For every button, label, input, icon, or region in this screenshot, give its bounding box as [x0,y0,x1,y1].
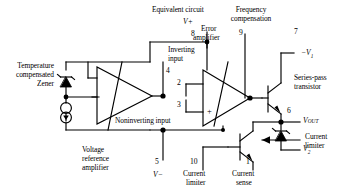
net-label-v2: V2 [303,144,310,155]
pin-label-4: 4 [166,66,170,75]
net-label-minus-v1-main: −V [301,48,311,57]
pin-label-6: 6 [287,106,291,115]
label-frequency-compensation-line1: Frequency [214,6,288,14]
zener-cathode-hook-right [72,77,75,80]
pin-label-2: 2 [177,78,181,87]
label-error-amplifier-line1: Error [201,25,216,33]
label-inverting-input-line1: Inverting [168,46,195,54]
label-temperature-compensated-line1: Temperature [2,62,54,70]
label-current-limiter-right-line1: Current [305,133,327,141]
label-current-limiter-left-line1: Current [183,170,205,178]
pin-label-9: 9 [239,28,243,37]
pin-label-10: 10 [190,157,198,166]
error-amplifier-plus-marker: + [207,106,212,116]
label-frequency-compensation-line2: compensation [206,15,296,23]
current-source-arrowhead [63,116,69,121]
label-error-amplifier-line2: amplifier [193,34,220,42]
label-temperature-compensated-line3: Zener [2,80,54,88]
net-label-v2-sub: 2 [308,149,311,155]
label-voltage-reference-line3: amplifier [82,164,109,172]
label-voltage-reference-line2: reference [82,155,109,163]
net-label-v-plus: V+ [183,17,193,26]
net-label-minus-v1-sub: 1 [311,53,314,59]
label-temperature-compensated-line2: compensated [2,71,54,79]
label-voltage-reference-line1: Voltage [82,146,104,154]
label-current-sense-line1: Current [232,170,254,178]
label-series-pass-line1: Series-pass [294,74,327,82]
error-amplifier-triangle [203,70,250,126]
current-limiter-arrowhead [262,136,270,144]
currentsense-collector [240,131,253,141]
seriespass-emitter [268,104,281,114]
seriespass-collector [268,83,281,93]
pin-label-5: 5 [155,157,159,166]
pin-label-3: 3 [177,100,181,109]
zener-cathode-hook-left [58,75,61,78]
pin-label-8: 8 [191,29,195,38]
label-noninverting-input: Noninverting input [115,117,171,125]
pin-label-7: 7 [294,27,298,36]
outzener-hook-left [273,129,276,132]
circuit-diagram-figure: Equivalent circuit Frequency compensatio… [0,0,356,194]
outzener-hook-right [287,131,290,134]
net-label-minus-v1: −V1 [301,48,313,59]
net-label-v-out: VOUT [303,116,318,125]
label-series-pass-line2: transistor [294,83,321,91]
pin-label-1: 1 [246,157,250,166]
schematic-drawing [0,0,356,194]
wire-erroramp-slant [214,62,228,126]
zener-triangle [61,77,72,87]
net-label-v-out-sub: OUT [308,118,319,124]
label-current-sense-line2: sense [236,179,252,187]
label-equivalent-circuit: Equivalent circuit [152,6,204,14]
label-current-limiter-left-line2: limiter [186,179,205,187]
label-inverting-input-line2: input [168,55,183,63]
net-label-v-minus: V− [153,170,163,179]
node-dot-erroramp-out [247,95,252,100]
